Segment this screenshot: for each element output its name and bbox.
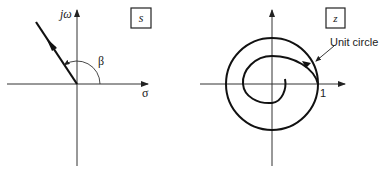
plane-label: s (139, 11, 144, 25)
z-plane-panel: Unit circle 1 z (200, 8, 378, 166)
s-plane-panel: β jω σ s (7, 7, 151, 166)
angle-label: β (98, 54, 104, 68)
unit-circle-pointer (316, 46, 334, 61)
horizontal-axis-label: σ (142, 86, 149, 100)
diagram-canvas: β jω σ s Unit circle 1 z (0, 0, 386, 172)
plane-label: z (332, 12, 338, 24)
circle-label: Unit circle (330, 36, 378, 48)
vertical-axis-label: jω (58, 7, 72, 21)
pole-trajectory-line (36, 22, 77, 84)
real-tick-label: 1 (320, 87, 326, 99)
